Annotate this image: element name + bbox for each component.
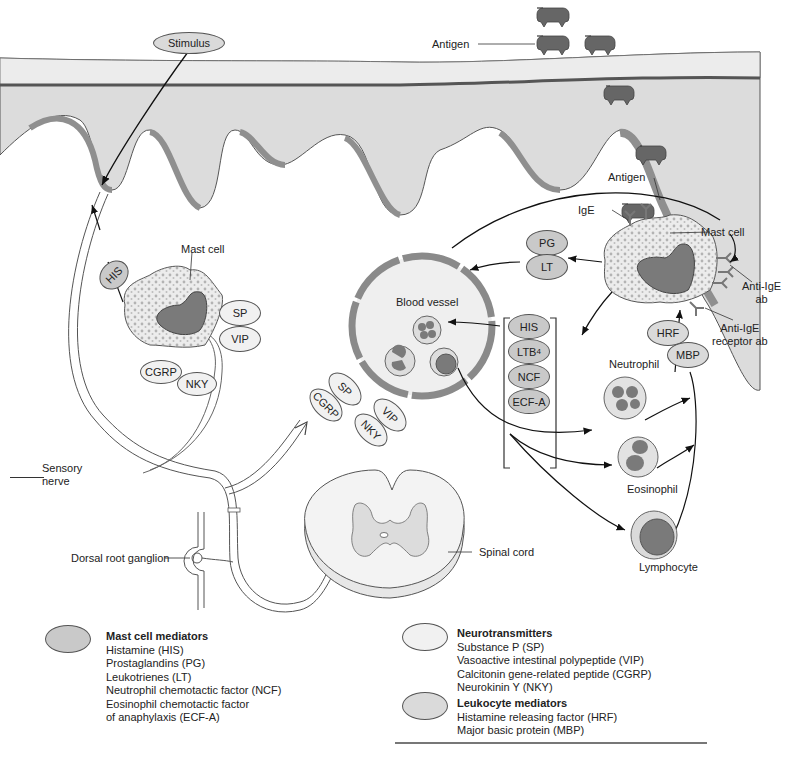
legend-item: Histamine releasing factor (HRF) bbox=[457, 711, 617, 725]
neutrophil-cell bbox=[604, 377, 646, 419]
sensory-nerve-label: Sensory nerve bbox=[42, 462, 82, 488]
eosinophil-cell bbox=[618, 437, 658, 477]
cgrp-oval-left: CGRP bbox=[140, 360, 182, 384]
eosinophil-label: Eosinophil bbox=[627, 483, 678, 496]
sp-oval-left: SP bbox=[219, 300, 261, 326]
legend-leukocyte-mediators: Leukocyte mediators Histamine releasing … bbox=[457, 697, 617, 738]
lymphocyte-label: Lymphocyte bbox=[639, 561, 698, 574]
legend-item: Major basic protein (MBP) bbox=[457, 724, 617, 738]
anti-ige-ab-label: Anti-IgE ab bbox=[742, 280, 781, 306]
legend-swatch-mast bbox=[45, 625, 91, 653]
pg-oval: PG bbox=[526, 230, 568, 256]
stimulus-label: Stimulus bbox=[153, 32, 225, 54]
legend-item: Vasoactive intestinal polypeptide (VIP) bbox=[457, 654, 651, 668]
spinal-cord-label: Spinal cord bbox=[479, 546, 534, 559]
antigen-icon bbox=[537, 36, 569, 55]
ltb4-oval: LTB4 bbox=[508, 339, 550, 364]
vip-oval-left: VIP bbox=[219, 326, 261, 352]
antigen-icon bbox=[537, 8, 569, 27]
his-oval-bracket: HIS bbox=[508, 314, 550, 339]
neutrophil-label: Neutrophil bbox=[609, 358, 659, 371]
legend-swatch-leuko bbox=[402, 692, 448, 720]
antigen-mast-label: Antigen bbox=[608, 171, 645, 184]
mast-cell-right-label: Mast cell bbox=[701, 226, 744, 239]
legend-neurotransmitters: Neurotransmitters Substance P (SP) Vasoa… bbox=[457, 627, 651, 695]
blood-vessel-label: Blood vessel bbox=[396, 296, 458, 309]
legend-mast-cell-mediators: Mast cell mediators Histamine (HIS) Pros… bbox=[106, 630, 281, 725]
lymphocyte-cell bbox=[631, 511, 677, 559]
antigen-icon bbox=[585, 36, 615, 55]
blood-vessel bbox=[352, 256, 492, 396]
legend-item: Prostaglandins (PG) bbox=[106, 657, 281, 671]
nky-oval-left: NKY bbox=[177, 372, 217, 396]
mbp-oval: MBP bbox=[667, 342, 709, 368]
legend-title: Leukocyte mediators bbox=[457, 697, 617, 711]
legend-item: Eosinophil chemotactic factor bbox=[106, 698, 281, 712]
legend-title: Neurotransmitters bbox=[457, 627, 651, 641]
mast-cell-left bbox=[124, 252, 222, 347]
legend-item: of anaphylaxis (ECF-A) bbox=[106, 711, 281, 725]
ltb4-text: LTB bbox=[517, 346, 536, 358]
mast-cell-left-label: Mast cell bbox=[181, 243, 224, 256]
legend-item: Leukotrienes (LT) bbox=[106, 671, 281, 685]
legend-item: Neutrophil chemotactic factor (NCF) bbox=[106, 684, 281, 698]
dorsal-root-ganglion-label: Dorsal root ganglion bbox=[71, 552, 169, 565]
ltb4-subscript: 4 bbox=[536, 347, 540, 356]
ncf-oval: NCF bbox=[508, 364, 550, 389]
dorsal-root-ganglion bbox=[165, 512, 233, 610]
ige-label: IgE bbox=[578, 204, 595, 217]
spinal-cord bbox=[305, 470, 472, 598]
ecfa-oval: ECF-A bbox=[508, 389, 550, 414]
legend-item: Histamine (HIS) bbox=[106, 644, 281, 658]
antigen-label: Antigen bbox=[432, 38, 469, 51]
legend-item: Calcitonin gene-related peptide (CGRP) bbox=[457, 668, 651, 682]
anti-ige-receptor-ab-label: Anti-IgE receptor ab bbox=[712, 322, 768, 348]
bottom-rule bbox=[395, 742, 707, 744]
legend-item: Substance P (SP) bbox=[457, 641, 651, 655]
legend-item: Neurokinin Y (NKY) bbox=[457, 681, 651, 695]
legend-swatch-neuro bbox=[402, 623, 448, 651]
legend-title: Mast cell mediators bbox=[106, 630, 281, 644]
lt-oval: LT bbox=[526, 254, 568, 280]
